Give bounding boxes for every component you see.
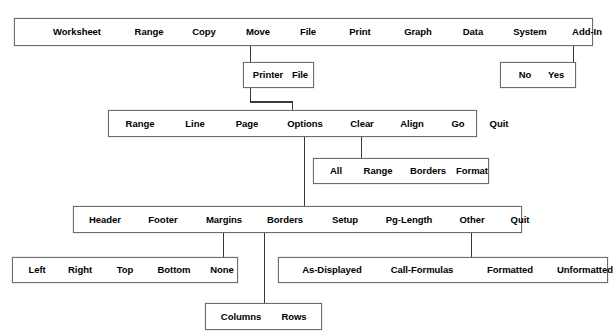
- menu-item-printer[interactable]: Printer: [253, 70, 283, 80]
- menu-item-pg-length[interactable]: Pg-Length: [386, 215, 433, 225]
- menu-item-worksheet[interactable]: Worksheet: [53, 27, 101, 37]
- menu-item-add-in[interactable]: Add-In: [572, 27, 602, 37]
- menu-item-align[interactable]: Align: [400, 119, 424, 129]
- menu-item-columns[interactable]: Columns: [221, 312, 261, 322]
- menu-item-yes[interactable]: Yes: [548, 70, 564, 80]
- menu-item-file[interactable]: File: [292, 70, 308, 80]
- print-destination-menu: PrinterFile: [243, 62, 314, 88]
- menu-item-call-formulas[interactable]: Call-Formulas: [391, 265, 454, 275]
- borders-submenu: ColumnsRows: [205, 303, 322, 330]
- faint-page-heading: [180, 0, 430, 4]
- options-submenu: HeaderFooterMarginsBordersSetupPg-Length…: [73, 206, 522, 233]
- menu-item-quit[interactable]: Quit: [490, 119, 509, 129]
- menu-item-unformatted[interactable]: Unformatted: [557, 265, 613, 275]
- menu-item-system[interactable]: System: [513, 27, 547, 37]
- clear-submenu: AllRangeBordersFormat: [313, 158, 489, 184]
- menu-item-quit[interactable]: Quit: [511, 215, 530, 225]
- menu-item-go[interactable]: Go: [451, 119, 464, 129]
- menu-item-print[interactable]: Print: [349, 27, 370, 37]
- menu-item-other[interactable]: Other: [459, 215, 484, 225]
- menu-item-top[interactable]: Top: [117, 265, 134, 275]
- menu-item-data[interactable]: Data: [463, 27, 483, 37]
- menu-item-range[interactable]: Range: [135, 27, 164, 37]
- menu-item-format[interactable]: Format: [456, 166, 488, 176]
- connector-lines: [0, 0, 615, 334]
- other-submenu: As-DisplayedCall-FormulasFormattedUnform…: [278, 257, 608, 283]
- menu-item-bottom[interactable]: Bottom: [158, 265, 191, 275]
- quit-confirm-menu: NoYes: [500, 62, 576, 88]
- menu-item-clear[interactable]: Clear: [350, 119, 374, 129]
- menu-item-borders[interactable]: Borders: [410, 166, 446, 176]
- menu-item-rows[interactable]: Rows: [281, 312, 306, 322]
- main-menu-bar: WorksheetRangeCopyMoveFilePrintGraphData…: [14, 18, 593, 46]
- menu-item-right[interactable]: Right: [68, 265, 92, 275]
- menu-item-copy[interactable]: Copy: [192, 27, 216, 37]
- menu-item-page[interactable]: Page: [236, 119, 259, 129]
- menu-item-none[interactable]: None: [210, 265, 234, 275]
- menu-item-all[interactable]: All: [330, 166, 342, 176]
- menu-item-range[interactable]: Range: [126, 119, 155, 129]
- menu-item-file[interactable]: File: [300, 27, 316, 37]
- menu-item-no[interactable]: No: [519, 70, 532, 80]
- menu-item-left[interactable]: Left: [28, 265, 45, 275]
- print-settings-menu: RangeLinePageOptionsClearAlignGoQuit: [108, 110, 477, 137]
- menu-tree-diagram: WorksheetRangeCopyMoveFilePrintGraphData…: [0, 0, 615, 334]
- menu-item-move[interactable]: Move: [246, 27, 270, 37]
- menu-item-footer[interactable]: Footer: [148, 215, 177, 225]
- menu-item-borders[interactable]: Borders: [267, 215, 303, 225]
- margins-submenu: LeftRightTopBottomNone: [12, 257, 238, 283]
- menu-item-as-displayed[interactable]: As-Displayed: [302, 265, 362, 275]
- menu-item-setup[interactable]: Setup: [332, 215, 358, 225]
- menu-item-line[interactable]: Line: [185, 119, 204, 129]
- menu-item-options[interactable]: Options: [287, 119, 323, 129]
- connector-destination-to-print-menu: [251, 88, 293, 110]
- menu-item-margins[interactable]: Margins: [206, 215, 242, 225]
- menu-item-range[interactable]: Range: [364, 166, 393, 176]
- menu-item-header[interactable]: Header: [89, 215, 121, 225]
- menu-item-graph[interactable]: Graph: [404, 27, 432, 37]
- menu-item-formatted[interactable]: Formatted: [487, 265, 533, 275]
